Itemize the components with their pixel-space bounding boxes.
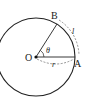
- center-dot: [34, 55, 37, 58]
- label-r: r: [52, 60, 56, 69]
- label-o: O: [25, 52, 32, 63]
- angle-arc: [40, 50, 44, 57]
- label-a: A: [74, 58, 82, 69]
- label-theta: θ: [46, 46, 50, 55]
- label-b: B: [51, 10, 58, 21]
- circle-diagram: O A B θ r l: [0, 0, 91, 106]
- arc-length-dashed: [59, 20, 79, 55]
- radius-dashed-arc: [37, 59, 74, 64]
- label-l: l: [72, 27, 75, 36]
